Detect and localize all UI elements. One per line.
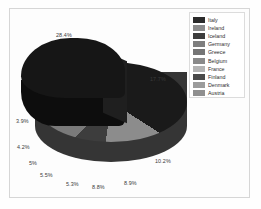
legend-label-ireland: Ireland: [208, 25, 224, 31]
legend-label-finland: Finland: [208, 74, 225, 80]
slice-label-greece: 8.8%: [92, 184, 105, 190]
legend-item-germany[interactable]: Germany: [193, 40, 242, 48]
legend-label-iceland: Iceland: [208, 33, 225, 39]
slice-label-germany: 8.9%: [124, 180, 137, 186]
pie-chart-screenshot: 28.4% 17.7% 10.2% 8.9% 8.8% 5.3% 5.5% 5%…: [0, 0, 261, 209]
slice-label-iceland: 10.2%: [155, 158, 171, 164]
legend-label-italy: Italy: [208, 17, 218, 23]
legend-swatch-ireland: [193, 25, 205, 31]
legend-swatch-finland: [193, 74, 205, 80]
legend-label-belgium: Belgium: [208, 58, 227, 64]
legend-label-france: France: [208, 66, 225, 72]
legend-swatch-austria: [193, 90, 205, 96]
legend-item-austria[interactable]: Austria: [193, 89, 242, 97]
slice-label-finland: 5%: [29, 160, 37, 166]
pie-3d-graphic: [15, 20, 195, 190]
legend-swatch-belgium: [193, 58, 205, 64]
legend-item-france[interactable]: France: [193, 65, 242, 73]
slice-label-france: 5.5%: [40, 172, 53, 178]
legend-item-denmark[interactable]: Denmark: [193, 81, 242, 89]
legend-swatch-france: [193, 66, 205, 72]
exploded-slice-top: [21, 38, 125, 98]
chart-legend: Italy Ireland Iceland Germany Greece Bel…: [189, 12, 245, 98]
legend-item-belgium[interactable]: Belgium: [193, 56, 242, 64]
legend-swatch-iceland: [193, 33, 205, 39]
legend-label-denmark: Denmark: [208, 82, 230, 88]
legend-swatch-italy: [193, 17, 205, 23]
legend-item-finland[interactable]: Finland: [193, 73, 242, 81]
legend-item-iceland[interactable]: Iceland: [193, 32, 242, 40]
slice-label-austria: 3.9%: [16, 118, 29, 124]
slice-label-italy: 28.4%: [56, 32, 72, 38]
legend-label-greece: Greece: [208, 49, 225, 55]
legend-swatch-denmark: [193, 82, 205, 88]
slice-label-ireland: 17.7%: [150, 76, 166, 82]
slice-label-belgium: 5.3%: [66, 181, 79, 187]
slice-label-denmark: 4.2%: [17, 144, 30, 150]
legend-swatch-greece: [193, 49, 205, 55]
legend-label-austria: Austria: [208, 90, 225, 96]
legend-item-italy[interactable]: Italy: [193, 16, 242, 24]
legend-swatch-germany: [193, 41, 205, 47]
legend-item-ireland[interactable]: Ireland: [193, 24, 242, 32]
legend-label-germany: Germany: [208, 41, 230, 47]
legend-item-greece[interactable]: Greece: [193, 48, 242, 56]
